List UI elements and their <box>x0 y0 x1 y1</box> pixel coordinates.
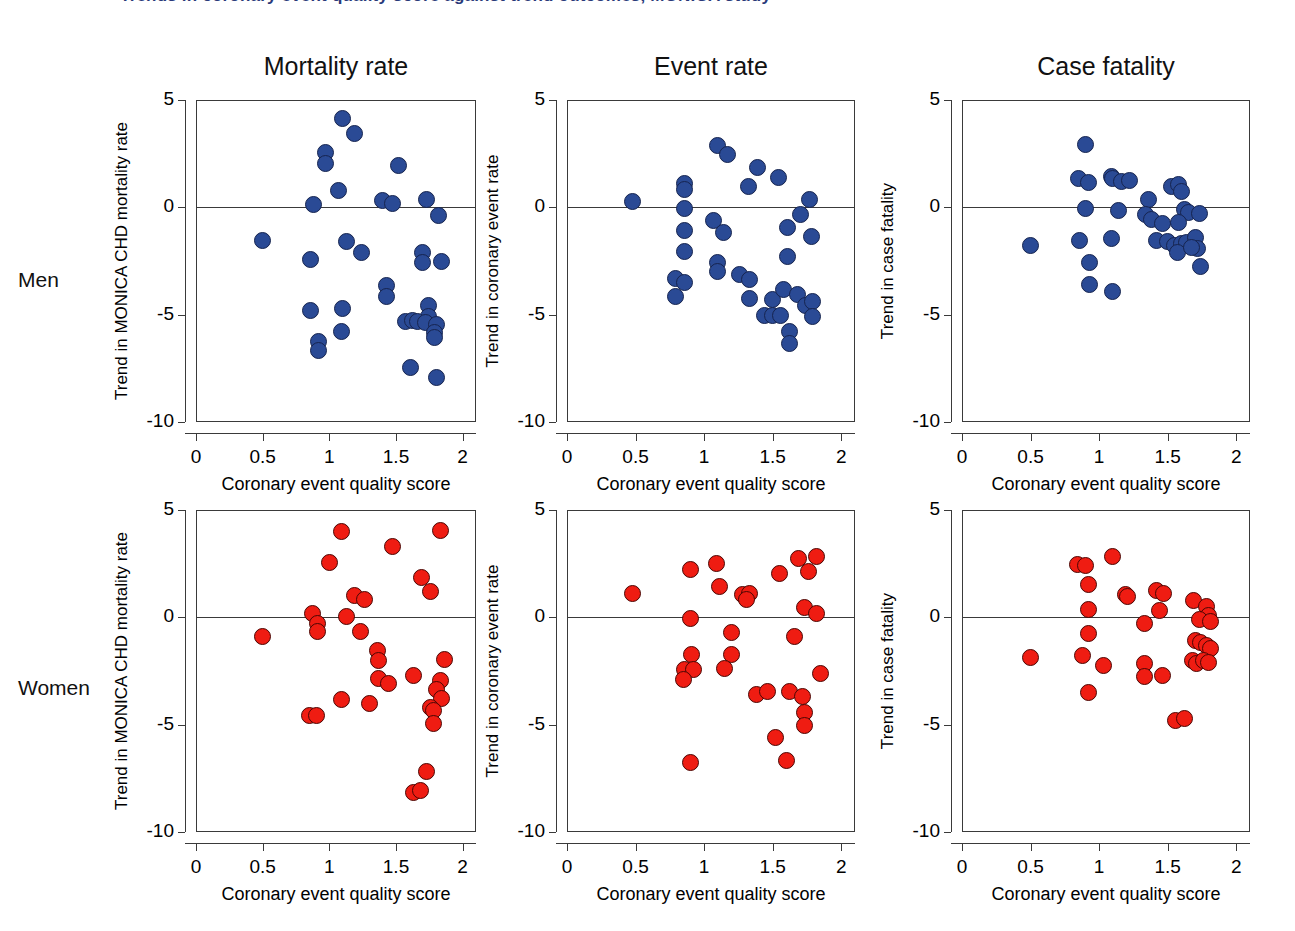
data-point <box>675 671 692 688</box>
x-tick-label: 0.5 <box>608 446 664 468</box>
data-point <box>1095 657 1112 674</box>
x-axis-title: Coronary event quality score <box>156 474 516 495</box>
data-point <box>676 181 693 198</box>
y-tick-label: -5 <box>126 303 174 325</box>
x-tick-label: 1 <box>301 856 357 878</box>
x-tick-label: 0.5 <box>1003 446 1059 468</box>
x-tick-label: 0.5 <box>1003 856 1059 878</box>
data-point <box>667 288 684 305</box>
x-tick-label: 0 <box>934 446 990 468</box>
data-point <box>433 253 450 270</box>
data-point <box>1192 258 1209 275</box>
data-point <box>1080 684 1097 701</box>
data-point <box>352 623 369 640</box>
data-point <box>778 752 795 769</box>
x-tick-label: 0.5 <box>235 856 291 878</box>
data-point <box>402 359 419 376</box>
data-point <box>741 271 758 288</box>
y-tick-label: 0 <box>497 195 545 217</box>
y-tick <box>549 725 556 726</box>
y-tick-label: -10 <box>126 410 174 432</box>
data-point <box>767 729 784 746</box>
x-axis-spine <box>951 843 1250 844</box>
data-point <box>302 302 319 319</box>
data-point <box>432 522 449 539</box>
data-point <box>682 561 699 578</box>
x-tick-label: 1.5 <box>368 856 424 878</box>
x-tick-label: 0 <box>934 856 990 878</box>
y-tick <box>178 100 185 101</box>
data-point <box>428 369 445 386</box>
y-axis-spine <box>185 510 186 832</box>
data-point <box>414 254 431 271</box>
y-tick <box>549 510 556 511</box>
x-tick <box>1236 843 1237 851</box>
x-tick <box>463 843 464 851</box>
x-axis-title: Coronary event quality score <box>922 884 1290 905</box>
y-tick-label: 5 <box>497 498 545 520</box>
x-tick <box>396 433 397 441</box>
x-tick-label: 1 <box>301 446 357 468</box>
data-point <box>715 224 732 241</box>
data-point <box>321 554 338 571</box>
x-axis-spine <box>556 433 855 434</box>
x-tick-label: 1.5 <box>1140 446 1196 468</box>
y-tick <box>178 832 185 833</box>
data-point <box>317 155 334 172</box>
data-point <box>1080 625 1097 642</box>
y-axis-spine <box>951 510 952 832</box>
data-point <box>334 110 351 127</box>
data-point <box>723 624 740 641</box>
data-point <box>1077 200 1094 217</box>
x-tick <box>1099 843 1100 851</box>
y-axis-title: Trend in MONICA CHD mortality rate <box>112 510 132 832</box>
data-point <box>711 578 728 595</box>
x-axis-title: Coronary event quality score <box>527 474 895 495</box>
x-tick-label: 1 <box>676 446 732 468</box>
y-axis-title: Trend in MONICA CHD mortality rate <box>112 100 132 422</box>
data-point <box>384 195 401 212</box>
y-tick <box>178 315 185 316</box>
y-axis-title: Trend in coronary event rate <box>483 510 503 832</box>
x-axis-spine <box>951 433 1250 434</box>
y-tick-label: -5 <box>497 303 545 325</box>
y-tick <box>549 207 556 208</box>
y-axis-spine <box>951 100 952 422</box>
y-tick <box>549 422 556 423</box>
x-axis-spine <box>185 843 476 844</box>
data-point <box>796 717 813 734</box>
x-tick <box>636 843 637 851</box>
y-tick <box>549 315 556 316</box>
x-tick <box>263 433 264 441</box>
x-tick <box>773 433 774 441</box>
y-tick-label: 0 <box>126 195 174 217</box>
y-tick-label: -10 <box>892 410 940 432</box>
x-tick <box>567 433 568 441</box>
x-tick-label: 1 <box>676 856 732 878</box>
data-point <box>1202 613 1219 630</box>
x-tick <box>1168 433 1169 441</box>
data-point <box>1170 214 1187 231</box>
y-tick <box>178 725 185 726</box>
data-point <box>1081 254 1098 271</box>
data-point <box>1077 136 1094 153</box>
y-axis-spine <box>185 100 186 422</box>
data-point <box>384 538 401 555</box>
data-point <box>1080 174 1097 191</box>
y-tick <box>944 100 951 101</box>
x-tick <box>1236 433 1237 441</box>
data-point <box>741 290 758 307</box>
y-tick-label: 5 <box>126 498 174 520</box>
data-point <box>1154 215 1171 232</box>
x-tick <box>463 433 464 441</box>
x-tick <box>1099 433 1100 441</box>
y-tick <box>178 510 185 511</box>
y-tick-label: -5 <box>892 303 940 325</box>
data-point <box>1022 649 1039 666</box>
data-point <box>759 683 776 700</box>
y-tick-label: -10 <box>126 820 174 842</box>
data-point <box>1103 230 1120 247</box>
data-point <box>1104 283 1121 300</box>
x-tick <box>704 843 705 851</box>
y-tick <box>944 422 951 423</box>
